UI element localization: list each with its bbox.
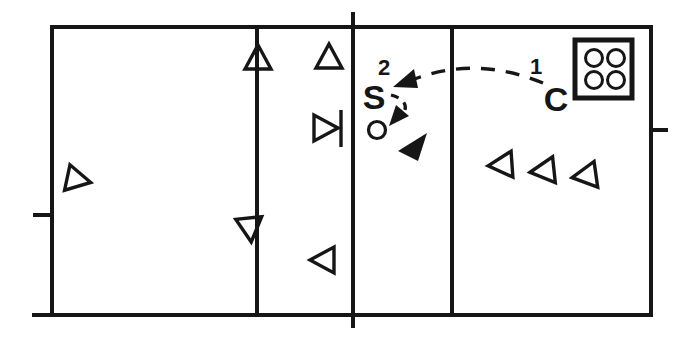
figure-page: S C 1 2 xyxy=(0,0,694,341)
ball-circle xyxy=(369,122,386,139)
player-triangle-down-on-left-attack-line xyxy=(236,217,264,244)
text-label-layer: S C 1 2 xyxy=(363,54,569,118)
player-triangle-right-at-net xyxy=(314,115,338,141)
cart-ball-circle-1 xyxy=(586,50,603,67)
player-triangle-right-left-court xyxy=(65,165,94,195)
queue-player-triangle-3 xyxy=(570,161,597,190)
phase-2-label: 2 xyxy=(378,55,390,80)
ball-cart-box xyxy=(575,40,632,98)
queue-player-triangle-2 xyxy=(529,157,556,185)
volleyball-drill-diagram: S C 1 2 xyxy=(0,0,694,341)
player-triangle-up-front-zone xyxy=(316,44,342,68)
cart-ball-circle-2 xyxy=(608,50,625,67)
player-triangle-left-mid-court xyxy=(310,247,334,273)
queue-player-triangle-1 xyxy=(487,151,513,179)
toss-arrowhead xyxy=(393,69,418,88)
phase-1-label: 1 xyxy=(530,54,542,79)
court-and-markers-layer xyxy=(32,12,668,328)
toss-path-1 xyxy=(407,68,543,83)
cart-ball-circle-3 xyxy=(586,72,603,89)
coach-label: C xyxy=(544,80,569,118)
solid-player-triangle xyxy=(398,133,427,161)
setter-label: S xyxy=(363,78,386,116)
cart-ball-circle-4 xyxy=(608,72,625,89)
